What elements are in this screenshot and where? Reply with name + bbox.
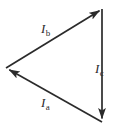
vector-label-ia-subscript: a <box>46 102 50 112</box>
vector-label-ib-subscript: b <box>46 28 51 38</box>
vector-label-ia-symbol: I <box>41 95 45 110</box>
vector-arrow-ib <box>6 11 100 68</box>
vector-label-ic-symbol: I <box>95 61 99 76</box>
vector-label-ib: Ib <box>41 22 50 35</box>
vector-label-ic: Ic <box>95 62 103 75</box>
phasor-triangle-figure: Ib Ic Ia <box>0 0 117 131</box>
vector-label-ia: Ia <box>41 96 49 109</box>
vector-arrow-ia <box>9 70 102 122</box>
vector-label-ic-subscript: c <box>100 68 104 78</box>
vector-label-ib-symbol: I <box>41 21 45 36</box>
